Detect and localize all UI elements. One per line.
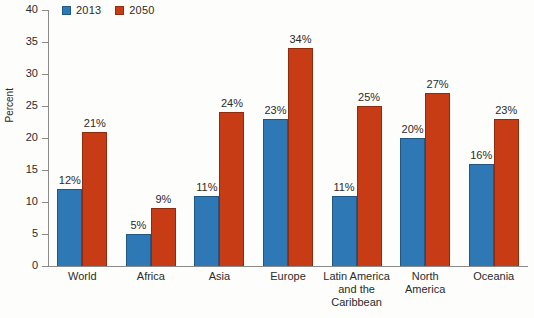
bar-slot: 27%: [425, 10, 450, 266]
x-axis-category-line: Asia: [185, 270, 254, 283]
x-axis-category-line: World: [48, 270, 117, 283]
x-axis-category-line: North: [391, 270, 460, 283]
bar-slot: 5%: [126, 10, 151, 266]
bar-2050[interactable]: [82, 132, 107, 266]
x-axis-category-line: Europe: [254, 270, 323, 283]
bar-value-label: 23%: [495, 105, 517, 116]
bar-2013[interactable]: [400, 138, 425, 266]
x-axis-category-label: NorthAmerica: [391, 270, 460, 296]
legend-item-2013: 2013: [62, 5, 101, 16]
bar-slot: 21%: [82, 10, 107, 266]
x-axis-category-line: America: [391, 283, 460, 296]
bar-2050[interactable]: [357, 106, 382, 266]
x-axis-category-line: Africa: [117, 270, 186, 283]
bar-chart: 2013 2050 Percent 0510152025303540 12%21…: [0, 0, 534, 318]
y-axis-tick: 0: [42, 266, 48, 267]
x-axis-category-label: Oceania: [459, 270, 528, 283]
bar-value-label: 25%: [358, 92, 380, 103]
bar-value-label: 24%: [221, 98, 243, 109]
bar-slot: 24%: [219, 10, 244, 266]
bar-2050[interactable]: [425, 93, 450, 266]
bar-value-label: 21%: [84, 118, 106, 129]
bar-2013[interactable]: [469, 164, 494, 266]
bar-slot: 9%: [151, 10, 176, 266]
bar-slot: 11%: [194, 10, 219, 266]
bar-value-label: 23%: [264, 105, 286, 116]
bar-2013[interactable]: [263, 119, 288, 266]
y-axis-tick-label: 40: [26, 3, 38, 15]
bar-slot: 16%: [469, 10, 494, 266]
y-axis-tick-label: 30: [26, 67, 38, 79]
x-axis-category-line: Caribbean: [322, 296, 391, 309]
bar-2050[interactable]: [494, 119, 519, 266]
bar-slot: 12%: [57, 10, 82, 266]
x-axis-category-line: and the: [322, 283, 391, 296]
bar-2013[interactable]: [332, 196, 357, 266]
bar-group: 11%25%: [332, 10, 382, 266]
x-axis-category-label: Africa: [117, 270, 186, 283]
bar-value-label: 5%: [130, 220, 146, 231]
bar-group: 5%9%: [126, 10, 176, 266]
bar-value-label: 34%: [289, 34, 311, 45]
bar-2050[interactable]: [288, 48, 313, 266]
bar-groups: 12%21%5%9%11%24%23%34%11%25%20%27%16%23%: [48, 10, 528, 266]
bar-group: 16%23%: [469, 10, 519, 266]
bar-2050[interactable]: [219, 112, 244, 266]
plot-area: 0510152025303540 12%21%5%9%11%24%23%34%1…: [48, 10, 528, 266]
bar-value-label: 11%: [333, 182, 354, 193]
bar-2013[interactable]: [57, 189, 82, 266]
bar-group: 20%27%: [400, 10, 450, 266]
bar-value-label: 27%: [427, 79, 449, 90]
bar-slot: 11%: [332, 10, 357, 266]
x-axis-line: [48, 266, 528, 267]
y-axis-tick-label: 20: [26, 131, 38, 143]
x-axis-category-label: Latin Americaand theCaribbean: [322, 270, 391, 309]
bar-group: 12%21%: [57, 10, 107, 266]
x-axis-labels: WorldAfricaAsiaEuropeLatin Americaand th…: [48, 270, 528, 309]
bar-slot: 25%: [357, 10, 382, 266]
bar-value-label: 9%: [155, 194, 171, 205]
bar-value-label: 11%: [196, 182, 217, 193]
bar-2013[interactable]: [194, 196, 219, 266]
y-axis-tick-label: 0: [32, 259, 38, 271]
bar-value-label: 20%: [402, 124, 424, 135]
x-axis-category-line: Oceania: [459, 270, 528, 283]
legend-item-2050: 2050: [115, 5, 154, 16]
y-axis-tick-label: 25: [26, 99, 38, 111]
bar-value-label: 16%: [470, 150, 492, 161]
legend-swatch-2050: [115, 6, 124, 15]
y-axis-tick-label: 35: [26, 35, 38, 47]
x-axis-category-label: World: [48, 270, 117, 283]
x-axis-category-line: Latin America: [322, 270, 391, 283]
bar-value-label: 12%: [59, 175, 81, 186]
bar-2050[interactable]: [151, 208, 176, 266]
bar-slot: 23%: [263, 10, 288, 266]
chart-legend: 2013 2050: [62, 5, 155, 16]
legend-swatch-2013: [62, 6, 71, 15]
y-axis-title: Percent: [4, 109, 15, 123]
y-axis-tick-label: 5: [32, 227, 38, 239]
bar-slot: 23%: [494, 10, 519, 266]
legend-label-2013: 2013: [76, 5, 101, 16]
y-axis-tick-label: 15: [26, 163, 38, 175]
bar-group: 11%24%: [194, 10, 244, 266]
bar-slot: 20%: [400, 10, 425, 266]
legend-label-2050: 2050: [129, 5, 154, 16]
bar-2013[interactable]: [126, 234, 151, 266]
y-axis-tick-label: 10: [26, 195, 38, 207]
bar-slot: 34%: [288, 10, 313, 266]
x-axis-category-label: Asia: [185, 270, 254, 283]
bar-group: 23%34%: [263, 10, 313, 266]
x-axis-category-label: Europe: [254, 270, 323, 283]
